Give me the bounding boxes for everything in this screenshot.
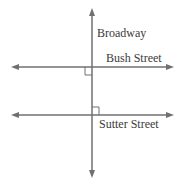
street-lines — [0, 0, 185, 186]
bush-street-label: Bush Street — [106, 51, 162, 66]
street-diagram: Broadway Bush Street Sutter Street — [0, 0, 185, 186]
arrowhead-right-icon — [166, 64, 174, 70]
arrowhead-left-icon — [11, 112, 19, 118]
arrowhead-right-icon — [166, 112, 174, 118]
right-angle-marker-bush — [85, 67, 92, 75]
arrowhead-up-icon — [89, 8, 95, 16]
broadway-label: Broadway — [97, 26, 146, 41]
arrowhead-down-icon — [89, 170, 95, 178]
sutter-street-label: Sutter Street — [99, 117, 159, 132]
arrowhead-left-icon — [11, 64, 19, 70]
right-angle-marker-sutter — [92, 107, 99, 115]
